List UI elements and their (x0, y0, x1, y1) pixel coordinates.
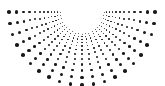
burst-dot (109, 11, 110, 12)
burst-dot (91, 40, 92, 41)
burst-dot (145, 21, 148, 24)
burst-dot (34, 35, 36, 37)
burst-dot (50, 53, 52, 55)
burst-dot (51, 41, 53, 43)
burst-dot (106, 11, 107, 12)
burst-dot (72, 40, 73, 41)
burst-dot (90, 37, 91, 38)
burst-dot (34, 11, 36, 13)
burst-dot (27, 49, 30, 52)
burst-dot (80, 76, 83, 79)
burst-dot (108, 16, 109, 17)
burst-dot (104, 28, 105, 29)
burst-dot (133, 11, 135, 13)
burst-dot (60, 12, 61, 13)
burst-dot (54, 38, 56, 40)
burst-dot (102, 53, 104, 55)
burst-dot (88, 58, 90, 60)
burst-dot (153, 10, 157, 14)
burst-dot (21, 53, 25, 57)
burst-dot (113, 75, 117, 79)
burst-dot (66, 27, 67, 28)
burst-dot (95, 29, 96, 30)
burst-dot (86, 42, 87, 43)
burst-dot (98, 45, 100, 47)
burst-dot (104, 12, 105, 13)
burst-dot (112, 11, 113, 12)
burst-dot (53, 49, 55, 51)
burst-dot (86, 38, 87, 39)
burst-dot (61, 18, 62, 19)
burst-dot (85, 33, 86, 34)
burst-dot (123, 18, 125, 20)
burst-dot (103, 15, 104, 16)
burst-dot (106, 15, 107, 16)
burst-dot (74, 53, 76, 55)
burst-dot (67, 39, 68, 40)
burst-dot (145, 43, 149, 47)
burst-dot (39, 52, 42, 55)
burst-dot (72, 31, 73, 32)
burst-dot (47, 75, 51, 79)
burst-dot (34, 57, 37, 60)
burst-dot (101, 39, 102, 40)
burst-dot (71, 44, 72, 45)
burst-dot (110, 69, 113, 72)
burst-dot (47, 11, 48, 12)
burst-dot (15, 43, 19, 47)
burst-dot (8, 22, 12, 26)
burst-dot (46, 58, 49, 61)
burst-dot (89, 63, 91, 65)
burst-dot (47, 28, 49, 30)
burst-dot (108, 38, 110, 40)
burst-dot (87, 49, 89, 51)
burst-dot (58, 19, 59, 20)
burst-dot (11, 33, 15, 37)
burst-dot (81, 36, 82, 37)
burst-dot (105, 19, 106, 20)
burst-dot (57, 35, 58, 36)
burst-dot (100, 49, 102, 51)
burst-dot (105, 58, 107, 60)
burst-dot (128, 35, 130, 37)
burst-dot (127, 57, 130, 60)
burst-dot (123, 69, 127, 73)
burst-dot (105, 35, 106, 36)
burst-dot (101, 22, 102, 23)
burst-dot (90, 69, 93, 72)
burst-dot (74, 58, 76, 60)
burst-dot (60, 73, 63, 76)
burst-dot (60, 15, 61, 16)
burst-dot (65, 34, 66, 35)
burst-dot (70, 75, 73, 78)
burst-dot (92, 82, 96, 86)
burst-dot (107, 63, 110, 66)
burst-dot (99, 36, 100, 37)
burst-dot (77, 42, 78, 43)
burst-dot (103, 33, 104, 34)
burst-dot (106, 24, 107, 25)
burst-dot (56, 45, 58, 47)
burst-dot (54, 31, 55, 32)
burst-dot (104, 42, 106, 44)
burst-dot (114, 22, 115, 23)
burst-dot (97, 42, 98, 43)
burst-dot (133, 49, 136, 52)
burst-dot (16, 21, 19, 24)
burst-dot (133, 37, 136, 40)
burst-dot (112, 53, 114, 55)
burst-dot (107, 20, 108, 21)
burst-dot (59, 53, 61, 55)
burst-dot (60, 23, 61, 24)
burst-dot (139, 11, 142, 14)
burst-dot (109, 49, 111, 51)
burst-dot (81, 45, 82, 46)
burst-dot (128, 18, 130, 20)
burst-dot (106, 45, 108, 47)
burst-dot (119, 30, 121, 32)
burst-dot (64, 29, 65, 30)
burst-dot (66, 42, 67, 43)
burst-dot (51, 16, 52, 17)
burst-dot (88, 53, 90, 55)
burst-dot (93, 47, 95, 49)
